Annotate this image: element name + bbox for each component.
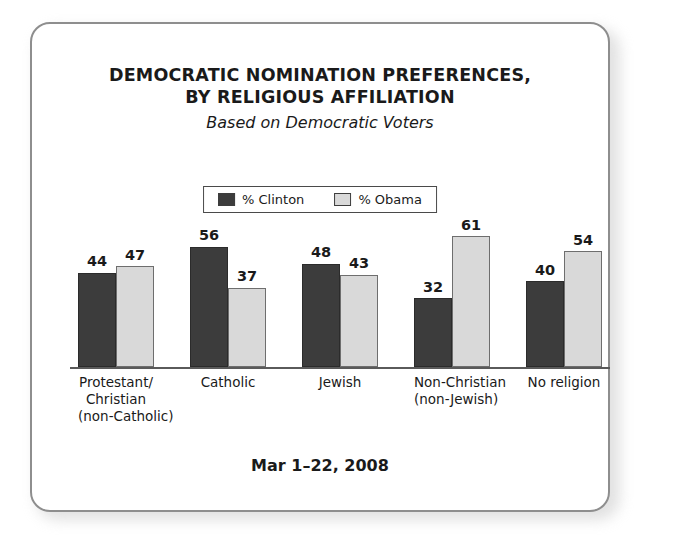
bar-wrapper: 44 <box>78 254 116 367</box>
legend-label-obama: % Obama <box>358 192 422 207</box>
bar <box>340 275 378 367</box>
category-label: Protestant/Christian(non-Catholic) <box>78 374 154 425</box>
bar-group: 5637 <box>190 228 266 367</box>
bar <box>564 251 602 367</box>
bar-wrapper: 37 <box>228 269 266 367</box>
chart-title-line-2: BY RELIGIOUS AFFILIATION <box>32 86 608 108</box>
chart-title-line-1: DEMOCRATIC NOMINATION PREFERENCES, <box>32 64 608 86</box>
legend-swatch-obama-icon <box>334 193 351 206</box>
bar-value-label: 40 <box>535 263 555 278</box>
bar-value-label: 37 <box>237 269 257 284</box>
bar-group: 4843 <box>302 245 378 367</box>
plot-area: 44475637484332614054 <box>70 214 610 369</box>
category-label-line: Protestant/ <box>78 374 154 391</box>
bar <box>302 264 340 367</box>
bar-value-label: 48 <box>311 245 331 260</box>
bar-wrapper: 47 <box>116 248 154 367</box>
category-label-line: (non-Jewish) <box>414 391 490 408</box>
legend-swatch-clinton-icon <box>218 193 235 206</box>
x-axis-line <box>70 367 610 369</box>
bar-wrapper: 56 <box>190 228 228 367</box>
bar-value-label: 43 <box>349 256 369 271</box>
category-label: Non-Christian(non-Jewish) <box>414 374 490 425</box>
bar-group: 4447 <box>78 248 154 367</box>
bar-wrapper: 32 <box>414 280 452 367</box>
category-label-line: Christian <box>78 391 154 408</box>
bar-value-label: 47 <box>125 248 145 263</box>
bar <box>452 236 490 367</box>
legend-item-obama: % Obama <box>334 192 422 207</box>
bar-wrapper: 40 <box>526 263 564 367</box>
bar <box>190 247 228 367</box>
category-label-line: Jewish <box>302 374 378 391</box>
category-label: Catholic <box>190 374 266 425</box>
bar <box>78 273 116 367</box>
bar-group: 3261 <box>414 218 490 368</box>
chart-subtitle: Based on Democratic Voters <box>32 110 608 136</box>
chart-card: DEMOCRATIC NOMINATION PREFERENCES, BY RE… <box>30 22 610 512</box>
category-label-line: Catholic <box>190 374 266 391</box>
category-label-line: Non-Christian <box>414 374 490 391</box>
screenshot-canvas: DEMOCRATIC NOMINATION PREFERENCES, BY RE… <box>0 0 679 549</box>
chart-title-block: DEMOCRATIC NOMINATION PREFERENCES, BY RE… <box>32 64 608 136</box>
category-labels: Protestant/Christian(non-Catholic)Cathol… <box>70 374 610 425</box>
legend-item-clinton: % Clinton <box>218 192 304 207</box>
bar-value-label: 56 <box>199 228 219 243</box>
bar-value-label: 32 <box>423 280 443 295</box>
category-label-line: (non-Catholic) <box>78 408 154 425</box>
bar-wrapper: 43 <box>340 256 378 367</box>
bar-value-label: 54 <box>573 233 593 248</box>
bar-wrapper: 48 <box>302 245 340 367</box>
bar-wrapper: 54 <box>564 233 602 367</box>
chart-legend: % Clinton % Obama <box>203 186 437 213</box>
bar <box>116 266 154 367</box>
bar-value-label: 61 <box>461 218 481 233</box>
bar-wrapper: 61 <box>452 218 490 368</box>
bar <box>228 288 266 367</box>
footer-date: Mar 1–22, 2008 <box>32 456 608 475</box>
legend-label-clinton: % Clinton <box>242 192 304 207</box>
category-label: Jewish <box>302 374 378 425</box>
category-label-line: No religion <box>526 374 602 391</box>
bar-value-label: 44 <box>87 254 107 269</box>
bar-group: 4054 <box>526 233 602 367</box>
category-label: No religion <box>526 374 602 425</box>
bar <box>414 298 452 367</box>
bar <box>526 281 564 367</box>
bar-groups: 44475637484332614054 <box>70 214 610 367</box>
